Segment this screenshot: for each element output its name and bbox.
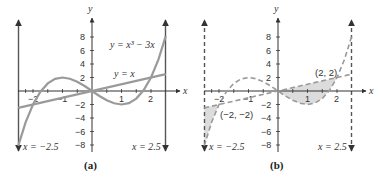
- intersection-label-upper: (2, 2): [315, 67, 337, 78]
- caption-b: (b): [270, 159, 284, 172]
- y-tick-label: 8: [80, 32, 85, 42]
- y-tick-label: −4: [75, 113, 85, 123]
- y-tick-label: −8: [75, 140, 85, 150]
- y-tick-label: 4: [80, 59, 85, 69]
- y-tick-label: 6: [266, 46, 271, 56]
- x-axis-label: x: [368, 85, 374, 96]
- y-tick-label: −2: [261, 100, 271, 110]
- left-boundary-label: x = −2.5: [208, 141, 244, 152]
- x-tick-label: 2: [334, 94, 339, 104]
- cubic-label: y = x³ − 3x: [109, 39, 155, 50]
- intersection-label-lower: (−2, −2): [220, 109, 253, 120]
- y-tick-label: 2: [80, 73, 85, 83]
- y-tick-label: −6: [261, 127, 271, 137]
- y-tick-label: 8: [266, 32, 271, 42]
- x-axis-label: x: [182, 85, 188, 96]
- right-boundary-label: x = 2.5: [131, 141, 161, 152]
- y-tick-label: 6: [80, 46, 85, 56]
- x-tick-label: 2: [148, 94, 153, 104]
- y-axis-label: y: [87, 3, 93, 14]
- shaded-region-left: [204, 105, 219, 146]
- y-tick-label: −4: [261, 113, 271, 123]
- y-tick-label: −8: [261, 140, 271, 150]
- figure: −2 −1 1 2 8 6 4 2 −2 −4 −6 −8 x y y = x³…: [0, 0, 379, 184]
- caption-a: (a): [84, 159, 97, 172]
- y-axis-label: y: [273, 3, 279, 14]
- y-tick-label: −2: [75, 100, 85, 110]
- x-tick-label: 1: [119, 94, 124, 104]
- line-label: y = x: [113, 68, 135, 79]
- panel-b: −2 −1 1 2 8 6 4 2 −2 −4 −6 −8 x y (2, 2)…: [204, 3, 374, 172]
- panel-a: −2 −1 1 2 8 6 4 2 −2 −4 −6 −8 x y y = x³…: [18, 3, 188, 172]
- y-tick-label: 2: [266, 73, 271, 83]
- right-boundary-label: x = 2.5: [317, 141, 347, 152]
- y-tick-label: −6: [75, 127, 85, 137]
- x-tick-label: 1: [305, 94, 310, 104]
- left-boundary-label: x = −2.5: [22, 141, 58, 152]
- y-tick-label: 4: [266, 59, 271, 69]
